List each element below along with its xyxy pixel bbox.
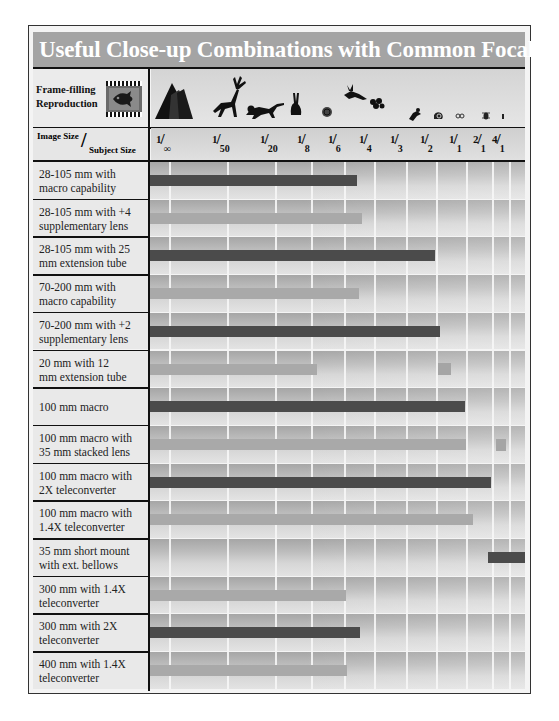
- gridline: [466, 237, 468, 274]
- axis-ticks: 1/∞ 1/50 1/20 1/8 1/6 1/4 1/3 1/2 1/1 2/…: [151, 128, 525, 160]
- row-label-line2: teleconverter: [39, 633, 148, 647]
- gridline: [466, 351, 468, 388]
- row-label-line1: 28-105 mm with +4: [39, 205, 148, 219]
- row-label-line1: 100 mm macro with: [39, 431, 148, 445]
- gridline: [466, 652, 468, 689]
- row-label: 28-105 mm with +4supplementary lens: [33, 200, 148, 237]
- row-label-line2: with ext. bellows: [39, 558, 148, 572]
- row-separator: [33, 387, 148, 389]
- row-label: 20 mm with 12mm extension tube: [33, 351, 148, 388]
- chart-title: Useful Close-up Combinations with Common…: [33, 32, 525, 67]
- gridline: [436, 614, 438, 651]
- row-chart-area: [150, 351, 525, 388]
- gridline: [374, 275, 376, 312]
- gridline: [492, 577, 494, 614]
- gridline: [492, 162, 494, 199]
- bird-icon: [344, 84, 367, 100]
- tick-1-6: 1/6: [328, 130, 341, 147]
- row-label: 70-200 mm withmacro capability: [33, 275, 148, 312]
- chart-row: 28-105 mm withmacro capability: [33, 162, 525, 199]
- gridline: [466, 539, 468, 576]
- tick-1-3: 1/3: [390, 130, 403, 147]
- row-separator: [33, 651, 148, 653]
- row-label-line1: 70-200 mm with +2: [39, 318, 148, 332]
- range-bar: [150, 213, 362, 224]
- row-label-line1: 35 mm short mount: [39, 544, 148, 558]
- gridline: [466, 577, 468, 614]
- row-chart-area: [150, 652, 525, 689]
- deer-icon: [213, 76, 246, 117]
- gridline: [344, 351, 346, 388]
- row-separator: [33, 236, 148, 238]
- tick-1-1: 1/1: [449, 130, 462, 147]
- row-chart-area: [150, 614, 525, 651]
- row-separator: [33, 463, 148, 465]
- gridline: [492, 351, 494, 388]
- gridline: [374, 162, 376, 199]
- gridline: [492, 464, 494, 501]
- row-chart-area: [150, 200, 525, 237]
- gridline: [509, 426, 511, 463]
- range-bar: [488, 552, 525, 563]
- gridline: [436, 275, 438, 312]
- row-label: 100 mm macro with2X teleconverter: [33, 464, 148, 501]
- row-separator: [33, 500, 148, 502]
- row-label: 28-105 mm with 25mm extension tube: [33, 237, 148, 274]
- axis-slash: /: [81, 129, 87, 152]
- axis-label-cell: Image Size / Subject Size: [33, 128, 148, 160]
- gridline: [436, 577, 438, 614]
- frame-filling-line2: Reproduction: [36, 97, 98, 111]
- tick-1-2: 1/2: [420, 130, 433, 147]
- chart-row: 300 mm with 2Xteleconverter: [33, 614, 525, 651]
- gridline: [466, 275, 468, 312]
- turtle-icon: [322, 107, 332, 117]
- row-separator: [33, 538, 148, 540]
- label-column-divider: [148, 69, 150, 691]
- gridline: [406, 539, 408, 576]
- row-label-line2: mm extension tube: [39, 370, 148, 384]
- row-label-line2: macro capability: [39, 181, 148, 195]
- frame-filling-line1: Frame-filling: [36, 83, 98, 97]
- range-marker: [438, 363, 451, 375]
- row-label-line1: 70-200 mm with: [39, 280, 148, 294]
- gridline: [492, 426, 494, 463]
- row-chart-area: [150, 501, 525, 538]
- gridline: [509, 313, 511, 350]
- range-bar: [150, 364, 317, 375]
- range-bar: [150, 326, 440, 337]
- gridline: [492, 614, 494, 651]
- row-label: 300 mm with 1.4Xteleconverter: [33, 577, 148, 614]
- row-separator: [33, 274, 148, 276]
- range-marker: [496, 439, 506, 451]
- title-divider: [33, 67, 525, 69]
- row-chart-area: [150, 388, 525, 425]
- chart-row: 20 mm with 12mm extension tube: [33, 351, 525, 388]
- chart-row: 35 mm short mountwith ext. bellows: [33, 539, 525, 576]
- tick-1-inf: 1/∞: [156, 130, 171, 147]
- row-label: 70-200 mm with +2supplementary lens: [33, 313, 148, 350]
- chart-row: 28-105 mm with +4supplementary lens: [33, 200, 525, 237]
- mountain-icon: [155, 83, 193, 119]
- row-label-line1: 20 mm with 12: [39, 356, 148, 370]
- row-label-line1: 100 mm macro with: [39, 469, 148, 483]
- gridline: [509, 614, 511, 651]
- gridline: [492, 652, 494, 689]
- row-chart-area: [150, 577, 525, 614]
- gridline: [374, 351, 376, 388]
- row-separator: [33, 312, 148, 314]
- range-bar: [150, 250, 435, 261]
- row-chart-area: [150, 539, 525, 576]
- row-label: 300 mm with 2Xteleconverter: [33, 614, 148, 651]
- row-label: 100 mm macro: [33, 388, 148, 425]
- frame-filling-label: Frame-filling Reproduction: [36, 83, 98, 111]
- row-chart-area: [150, 464, 525, 501]
- row-label-line1: 300 mm with 1.4X: [39, 582, 148, 596]
- gridline: [227, 539, 229, 576]
- range-bar: [150, 590, 346, 601]
- frame-filling-row: Frame-filling Reproduction: [33, 69, 525, 128]
- chart-row: 100 mm macro with1.4X teleconverter: [33, 501, 525, 538]
- subject-icons-strip: [151, 69, 525, 128]
- row-label-line2: teleconverter: [39, 671, 148, 685]
- gridline: [509, 652, 511, 689]
- chart-row: 300 mm with 1.4Xteleconverter: [33, 577, 525, 614]
